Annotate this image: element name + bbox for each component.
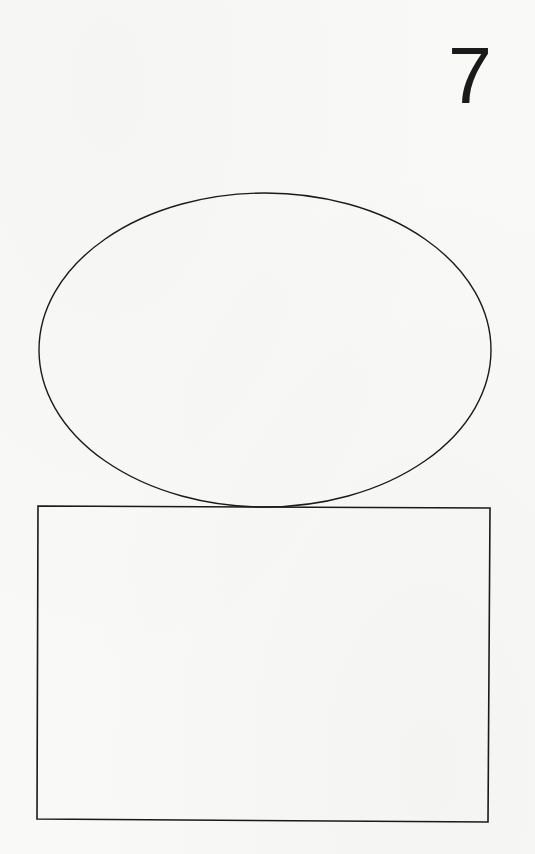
outline-ellipse: [39, 193, 491, 507]
scanned-page: 7: [0, 0, 535, 854]
figure-canvas: [0, 0, 535, 854]
outline-rectangle: [37, 506, 490, 822]
